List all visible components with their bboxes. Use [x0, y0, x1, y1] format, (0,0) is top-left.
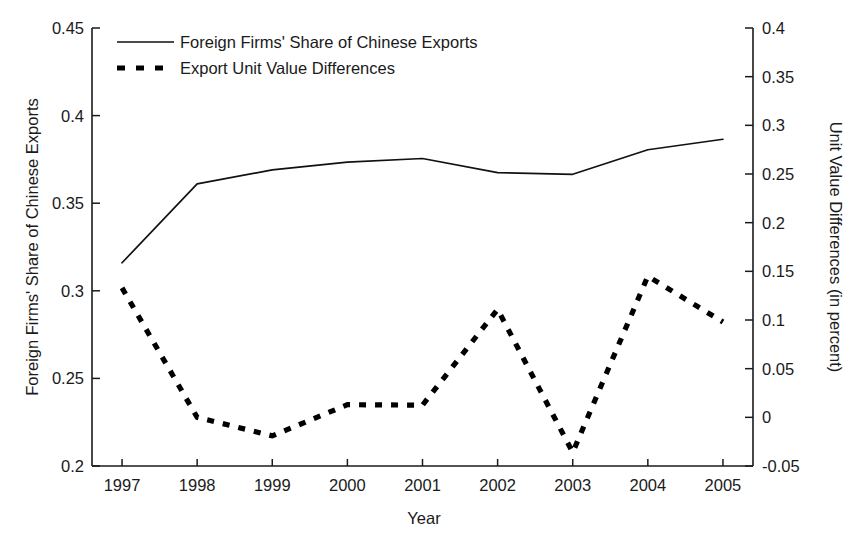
left-tick-label: 0.2 — [61, 457, 84, 475]
line-chart: 0.20.250.30.350.40.45 -0.0500.050.10.150… — [0, 0, 860, 551]
right-tick-label: 0.05 — [762, 360, 794, 378]
x-tick-label: 2002 — [479, 476, 516, 494]
right-tick-label: 0.25 — [762, 165, 794, 183]
x-tick-label: 1999 — [254, 476, 291, 494]
x-tick-label: 2001 — [404, 476, 441, 494]
legend-label-export-unit-value-differences: Export Unit Value Differences — [180, 59, 395, 77]
x-tick-label: 1998 — [179, 476, 216, 494]
y-axis-title: Foreign Firms' Share of Chinese Exports — [23, 98, 41, 396]
x-tick-label: 2004 — [629, 476, 666, 494]
left-tick-label: 0.25 — [52, 369, 84, 387]
series-export-unit-value-differences-line — [122, 276, 723, 452]
right-tick-label: 0.4 — [762, 19, 785, 37]
right-tick-label: 0.1 — [762, 311, 785, 329]
right-tick-label: 0.15 — [762, 262, 794, 280]
left-tick-label: 0.3 — [61, 282, 84, 300]
x-tick-label: 2000 — [329, 476, 366, 494]
left-tick-label: 0.4 — [61, 107, 84, 125]
x-tick-label: 1997 — [104, 476, 141, 494]
axis-frame — [92, 28, 753, 466]
right-tick-label: -0.05 — [762, 457, 800, 475]
right-tick-label: 0.3 — [762, 116, 785, 134]
right-tick-label: 0.2 — [762, 214, 785, 232]
right-tick-label: 0.35 — [762, 68, 794, 86]
legend: Foreign Firms' Share of Chinese Exports … — [117, 33, 478, 77]
x-tick-label: 2003 — [554, 476, 591, 494]
chart-container: 0.20.250.30.350.40.45 -0.0500.050.10.150… — [0, 0, 860, 551]
left-tick-label: 0.35 — [52, 194, 84, 212]
x-axis-title: Year — [407, 509, 441, 527]
left-tick-label: 0.45 — [52, 19, 84, 37]
y2-axis-title: Unit Value Differences (in percent) — [827, 122, 845, 373]
series-foreign-firms-share-line — [122, 139, 723, 263]
x-axis-ticks: 199719981999200020012002200320042005 — [104, 459, 742, 494]
x-tick-label: 2005 — [705, 476, 742, 494]
right-tick-label: 0 — [762, 408, 771, 426]
legend-label-foreign-firms-share: Foreign Firms' Share of Chinese Exports — [180, 33, 478, 51]
